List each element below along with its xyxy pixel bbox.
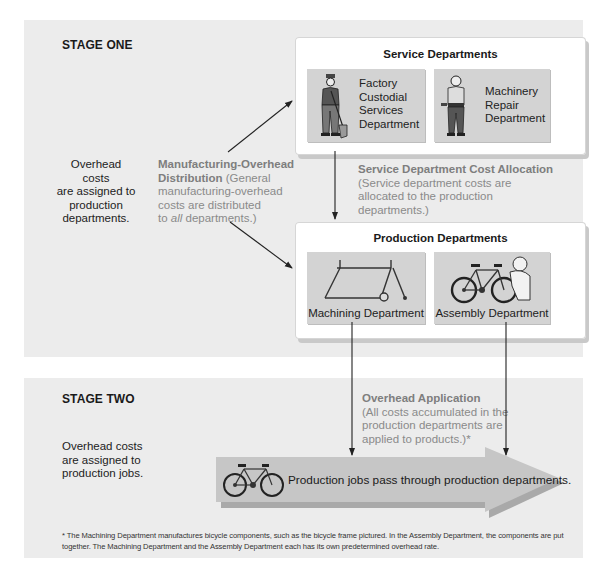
- bicycle-icon: [222, 463, 286, 499]
- dept-line: Department: [359, 118, 419, 132]
- bicycle-assembly-icon: [448, 256, 540, 306]
- distribution-emphasis: all: [171, 212, 183, 224]
- distribution-text: manufacturing-overhead: [158, 185, 298, 199]
- custodian-worker-icon: [317, 73, 349, 139]
- application-text: applied to products.)*: [362, 433, 522, 447]
- distribution-text: to: [158, 212, 171, 224]
- distribution-heading: Manufacturing-Overhead: [158, 158, 294, 170]
- dept-line: Machinery: [485, 85, 545, 99]
- overhead-application-label: Overhead Application (All costs accumula…: [362, 392, 522, 446]
- assembly-department-box: Assembly Department: [434, 252, 550, 324]
- dept-line: Custodial: [359, 91, 419, 105]
- distribution-text: departments.): [182, 212, 256, 224]
- service-departments-box: Service Departments Factory Custodial Se…: [295, 37, 586, 155]
- dept-line: Services: [359, 104, 419, 118]
- repair-worker-icon: [440, 73, 470, 137]
- stage-one-title: STAGE ONE: [62, 38, 133, 52]
- allocation-text: (Service department costs are: [358, 177, 588, 191]
- bicycle-frame-icon: [323, 258, 413, 302]
- note-line: production: [56, 199, 136, 213]
- footnote: * The Machining Department manufactures …: [62, 530, 592, 552]
- stage-two-note: Overhead costs are assigned to productio…: [62, 440, 143, 481]
- dept-line: Department: [485, 112, 545, 126]
- allocation-heading: Service Department Cost Allocation: [358, 163, 553, 175]
- overhead-distribution-label: Manufacturing-Overhead Distribution (Gen…: [158, 158, 298, 226]
- footnote-line: * The Machining Department manufactures …: [62, 530, 592, 541]
- assembly-department-label: Assembly Department: [434, 307, 550, 321]
- custodial-department-label: Factory Custodial Services Department: [359, 77, 419, 131]
- custodial-department-box: Factory Custodial Services Department: [307, 69, 425, 142]
- note-line: are assigned to: [62, 454, 143, 468]
- production-departments-box: Production Departments Machining Departm…: [295, 222, 586, 339]
- service-departments-title: Service Departments: [295, 48, 586, 60]
- machining-department-label: Machining Department: [307, 307, 425, 321]
- dept-line: Repair: [485, 99, 545, 113]
- distribution-text: (General: [223, 172, 271, 184]
- note-line: Overhead costs: [56, 158, 136, 185]
- machining-department-box: Machining Department: [307, 252, 425, 324]
- application-text: production departments are: [362, 419, 522, 433]
- production-departments-title: Production Departments: [295, 232, 586, 244]
- note-line: are assigned to: [56, 185, 136, 199]
- stage-two-title: STAGE TWO: [62, 392, 135, 406]
- stage-one-note: Overhead costs are assigned to productio…: [56, 158, 136, 226]
- cost-allocation-label: Service Department Cost Allocation (Serv…: [358, 163, 588, 217]
- machinery-repair-department-label: Machinery Repair Department: [485, 85, 545, 126]
- application-text: (All costs accumulated in the: [362, 406, 522, 420]
- flow-arrow-label: Production jobs pass through production …: [288, 473, 571, 487]
- machinery-repair-department-box: Machinery Repair Department: [434, 69, 550, 142]
- distribution-text: costs are distributed: [158, 199, 298, 213]
- distribution-heading-2: Distribution: [158, 172, 223, 184]
- allocation-text: departments.): [358, 204, 588, 218]
- note-line: departments.: [56, 212, 136, 226]
- note-line: production jobs.: [62, 467, 143, 481]
- note-line: Overhead costs: [62, 440, 143, 454]
- footnote-line: together. The Machining Department and t…: [62, 541, 592, 552]
- dept-line: Factory: [359, 77, 419, 91]
- allocation-text: allocated to the production: [358, 190, 588, 204]
- application-heading: Overhead Application: [362, 392, 480, 404]
